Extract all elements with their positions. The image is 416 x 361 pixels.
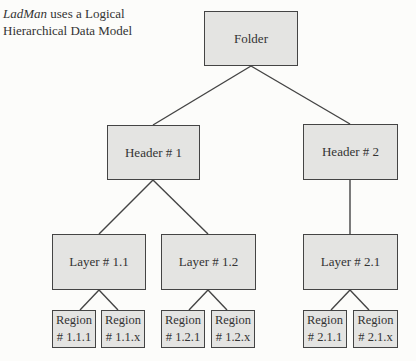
region-line1: Region <box>105 313 141 327</box>
region-line1: Region <box>307 313 343 327</box>
edge-layer21-region211 <box>331 290 350 310</box>
edge-folder-header2 <box>251 66 350 124</box>
region-line2: # 2.1.x <box>358 330 392 344</box>
region-line2: # 2.1.1 <box>308 330 342 344</box>
node-label: Layer # 1.2 <box>179 254 239 270</box>
edge-layer12-region12x <box>208 290 227 310</box>
edge-layer12-region121 <box>189 290 208 310</box>
edge-layer11-region111 <box>80 290 99 310</box>
edge-folder-header1 <box>153 66 251 125</box>
node-layer-1-2: Layer # 1.2 <box>161 234 256 290</box>
node-label: Layer # 1.1 <box>69 254 129 270</box>
node-region-1-2-x: Region# 1.2.x <box>211 310 255 348</box>
hierarchy-diagram: LadMan uses a Logical Hierarchical Data … <box>0 0 416 361</box>
region-line1: Region <box>357 313 393 327</box>
node-region-1-1-x: Region# 1.1.x <box>101 310 145 348</box>
node-label: Header # 1 <box>125 145 182 161</box>
node-region-2-1-x: Region# 2.1.x <box>353 310 398 348</box>
region-line2: # 1.1.1 <box>57 330 91 344</box>
node-region-1-1-1: Region# 1.1.1 <box>52 310 96 348</box>
node-layer-1-1: Layer # 1.1 <box>52 234 146 290</box>
node-label: Header # 2 <box>322 144 379 160</box>
node-layer-2-1: Layer # 2.1 <box>303 234 398 290</box>
region-line2: # 1.1.x <box>106 330 140 344</box>
edge-header1-layer12 <box>153 180 208 234</box>
region-line2: # 1.2.1 <box>166 330 200 344</box>
edge-layer11-region11x <box>99 290 118 310</box>
node-region-1-2-1: Region# 1.2.1 <box>161 310 205 348</box>
region-line1: Region <box>165 313 201 327</box>
region-line2: # 1.2.x <box>216 330 250 344</box>
node-label: Folder <box>234 31 268 47</box>
edge-header1-layer11 <box>99 180 153 234</box>
region-line1: Region <box>56 313 92 327</box>
node-header-2: Header # 2 <box>303 124 398 180</box>
node-folder: Folder <box>204 11 298 66</box>
node-region-2-1-1: Region# 2.1.1 <box>303 310 347 348</box>
edge-layer21-region21x <box>350 290 369 310</box>
region-line1: Region <box>215 313 251 327</box>
node-label: Layer # 2.1 <box>321 254 381 270</box>
node-header-1: Header # 1 <box>107 125 200 180</box>
